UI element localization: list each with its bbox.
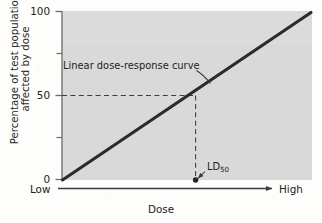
ld50-point-marker: [193, 177, 198, 182]
ld50-annotation-label: LD50: [207, 161, 229, 172]
ld50-subscript: 50: [220, 165, 229, 174]
y-tick-label-50: 50: [24, 89, 50, 101]
x-axis-high-label: High: [279, 183, 303, 195]
y-tick-label-100: 100: [24, 5, 50, 17]
dose-response-figure: Percentage of test population affected b…: [0, 0, 322, 223]
x-axis-low-label: Low: [30, 183, 50, 195]
y-axis-title-line-1: Percentage of test population: [9, 0, 20, 144]
ld50-prefix: LD: [207, 161, 220, 172]
curve-annotation-label: Linear dose-response curve: [63, 60, 200, 71]
x-axis-title: Dose: [0, 203, 322, 215]
y-axis-title: Percentage of test population affected b…: [3, 0, 37, 157]
